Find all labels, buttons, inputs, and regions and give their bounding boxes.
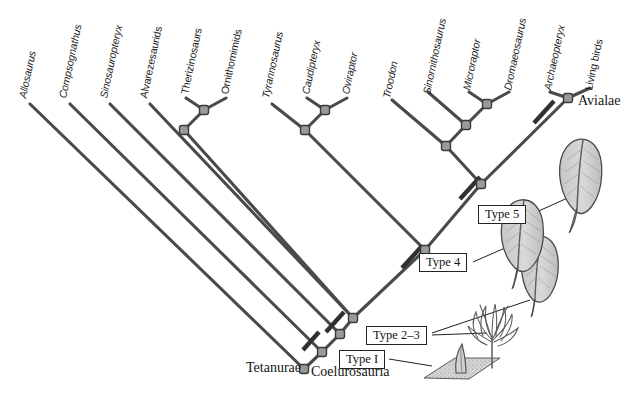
node-micro-drom [483,100,492,109]
callout-box-type4: Type 4 [419,253,467,272]
figure-caption [0,392,621,403]
illustration-type1-filament [424,344,500,379]
callout-box-type5: Type 5 [478,205,526,224]
clade-label-avialae: Avialae [578,93,621,109]
tuft-barb-7 [494,328,518,346]
node-troodon [442,142,451,151]
clade-label-tetanurae: Tetanurae [246,360,301,376]
callout-box-type2-3: Type 2–3 [366,326,427,345]
node-sino [318,348,327,357]
tuft-barb-5 [493,314,512,341]
callout-box-type1: Type I [339,350,385,369]
vane-23-calamus [531,299,535,317]
node-caud-ovi [321,106,330,115]
branch-sinosauropteryx [110,104,340,334]
node-paraves [477,180,486,189]
branch-maniraptora-stem [353,250,425,318]
branch-tyr-stem [305,130,425,250]
branch-paraves-stem [425,184,481,250]
node-sinorn [462,121,471,130]
branch-troodon [392,100,446,146]
branch-tyrannosaurus [272,104,305,130]
illustration-type5-feather [560,139,602,233]
branch-sinornithosaurus [428,92,466,125]
node-coelurosauria [349,314,358,323]
node-arch-birds [564,94,573,103]
branch-alvarez-stem [184,130,353,318]
branch-deinonychosaur-stem [446,146,481,184]
node-compso [336,330,345,339]
branch-allosaurus [30,104,304,369]
node-tyr [301,126,310,135]
figure-cladogram-feather-evolution: Allosaurus Compsognathus Sinosauropteryx… [0,0,621,403]
branch-avialae-stem [481,98,568,184]
leader-type4 [473,248,505,262]
leader-type1 [389,359,432,366]
node-alv [180,126,189,135]
node-ther-orni [200,106,209,115]
